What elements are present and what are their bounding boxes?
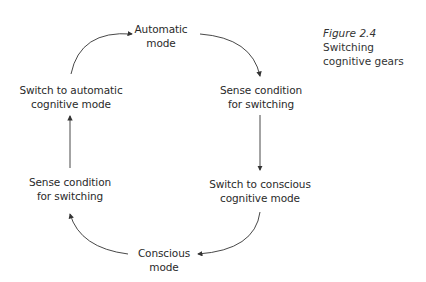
node-label-line1: Sense condition [29,175,111,189]
node-automatic-mode: Automatic mode [135,22,188,50]
figure-title-line1: Switching [323,40,404,54]
arrow-conscious-mode-to-sense-left [70,214,128,254]
node-label-line2: cognitive mode [19,97,122,111]
node-label-line2: mode [135,36,188,50]
arrow-switch-conscious-to-conscious-mode [198,212,260,254]
node-conscious-mode: Conscious mode [138,246,190,274]
arrow-switch-automatic-to-automatic-mode [71,34,132,74]
node-sense-condition-left: Sense condition for switching [29,175,111,203]
node-label-line2: cognitive mode [209,191,311,205]
node-sense-condition-right: Sense condition for switching [220,83,302,111]
node-label-line1: Sense condition [220,83,302,97]
node-label-line1: Switch to automatic [19,83,122,97]
figure-number: Figure 2.4 [323,26,404,40]
node-switch-to-conscious: Switch to conscious cognitive mode [209,177,311,205]
figure-caption: Figure 2.4 Switching cognitive gears [323,26,404,68]
node-label-line2: mode [138,260,190,274]
figure-title-line2: cognitive gears [323,54,404,68]
arrow-automatic-mode-to-sense-right [200,34,260,76]
node-label-line1: Conscious [138,246,190,260]
node-label-line2: for switching [29,189,111,203]
node-label-line1: Switch to conscious [209,177,311,191]
node-label-line1: Automatic [135,22,188,36]
node-label-line2: for switching [220,97,302,111]
node-switch-to-automatic: Switch to automatic cognitive mode [19,83,122,111]
